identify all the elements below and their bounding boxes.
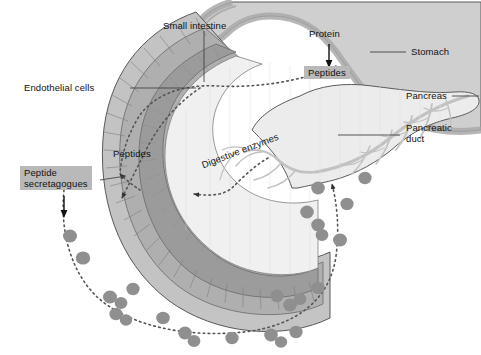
label-peptide-secretagogues: Peptide secretagogues [20,166,92,190]
label-endothelial-cells: Endothelial cells [24,82,94,93]
label-pancreas: Pancreas [406,90,447,101]
label-stomach: Stomach [411,46,449,57]
label-pancreatic-duct: Pancreatic duct [406,122,452,144]
figure-canvas: Small intestine Endothelial cells Stomac… [0,0,481,355]
label-peptides-intestine: Peptides [113,148,151,159]
secretagogue-down-arrow [61,196,68,218]
label-protein: Protein [309,28,340,39]
label-small-intestine: Small intestine [163,20,226,31]
label-peptides-stomach: Peptides [304,66,350,79]
